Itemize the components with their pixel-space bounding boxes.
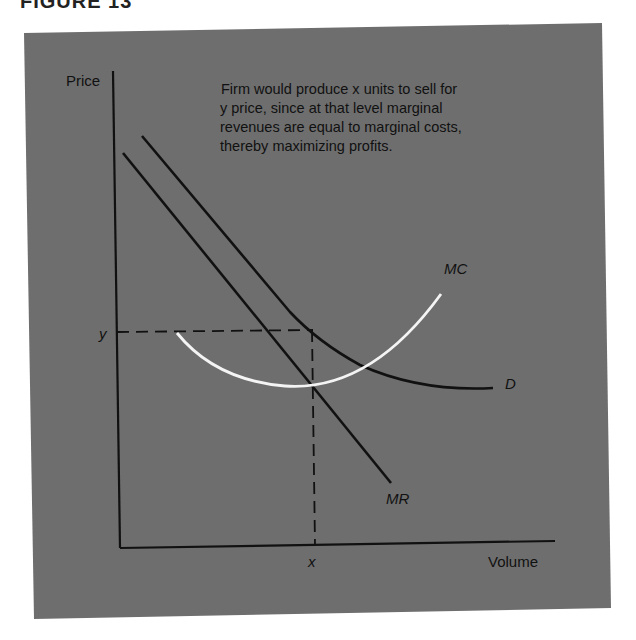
annotation-line-3: revenues are equal to marginal costs, (220, 119, 462, 135)
annotation-line-1: Firm would produce x units to sell for (221, 81, 457, 97)
chart: Price Volume y x MC D MR Firm would prod… (0, 0, 636, 640)
annotation-line-2: y price, since at that level marginal (220, 100, 442, 116)
demand-label: D (505, 375, 516, 392)
annotation-line-4: thereby maximizing profits. (220, 138, 392, 154)
x-axis-label: Volume (488, 553, 538, 570)
y-axis-label: Price (66, 72, 100, 89)
mc-label: MC (444, 260, 467, 277)
x-tick-label: x (307, 553, 316, 570)
mr-label: MR (386, 490, 409, 507)
